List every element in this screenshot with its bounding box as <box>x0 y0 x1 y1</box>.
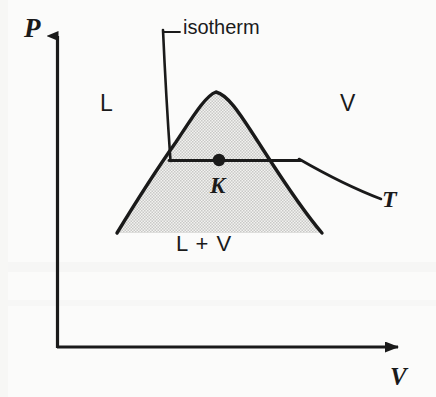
two-phase-region-label: L + V <box>176 233 232 255</box>
isotherm-curve-label: T <box>382 187 397 211</box>
pv-phase-diagram-figure: P V isotherm L V L + V K T <box>0 0 436 397</box>
diagram-canvas <box>0 0 436 397</box>
critical-point-label: K <box>210 174 225 197</box>
vapor-region-label: V <box>340 92 355 115</box>
critical-point-dot <box>213 154 225 166</box>
liquid-region-label: L <box>100 92 113 115</box>
y-axis-label: P <box>24 15 41 42</box>
isotherm-callout-label: isotherm <box>183 17 260 37</box>
x-axis-label: V <box>390 364 407 389</box>
